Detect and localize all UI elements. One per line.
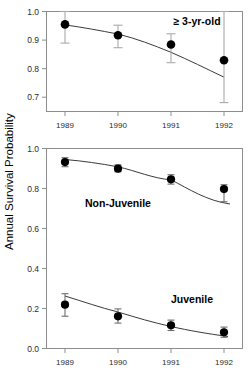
nonjuvenile-marker-1989: [61, 158, 69, 166]
top-xtick-label-1992: 1992: [215, 121, 233, 130]
nonjuvenile-datapoint-1989: [61, 158, 69, 167]
top-ytick-label-1.0: 1.0: [27, 7, 39, 17]
top-ytick-label-0.9: 0.9: [27, 35, 39, 45]
top-ytick-label-0.8: 0.8: [27, 64, 39, 74]
top-marker-1992: [220, 56, 229, 65]
bottom-ytick-label-0.0: 0.0: [27, 344, 39, 354]
top-datapoint-1992: [220, 12, 229, 103]
juvenile-marker-1989: [61, 301, 69, 309]
juvenile-marker-1992: [220, 328, 228, 336]
bottom-ytick-label-0.6: 0.6: [27, 224, 39, 234]
top-xtick-label-1989: 1989: [56, 121, 74, 130]
bottom-xtick-label-1990: 1990: [109, 358, 127, 367]
top-marker-1991: [167, 40, 176, 49]
bottom-panel: 1.0 0.8 0.6 0.4 0.2 0.0 1989 1990 1991 1…: [27, 144, 242, 368]
nonjuvenile-datapoint-1991: [167, 175, 175, 184]
nonjuvenile-series-label: Non-Juvenile: [85, 197, 151, 209]
bottom-panel-frame: [47, 149, 243, 349]
bottom-ytick-label-0.8: 0.8: [27, 184, 39, 194]
survival-probability-figure: Annual Survival Probability 1.0 0.9 0.8 …: [0, 0, 249, 370]
bottom-xtick-label-1989: 1989: [56, 358, 74, 367]
top-panel: 1.0 0.9 0.8 0.7 1989 1990 1991 1992: [27, 7, 242, 131]
juvenile-datapoint-1991: [167, 320, 175, 330]
bottom-ytick-label-1.0: 1.0: [27, 144, 39, 154]
juvenile-marker-1990: [114, 312, 122, 320]
top-datapoint-1989: [61, 12, 70, 44]
bottom-panel-y-axis: 1.0 0.8 0.6 0.4 0.2 0.0: [27, 144, 46, 354]
nonjuvenile-series-points: [61, 158, 228, 202]
nonjuvenile-marker-1990: [114, 165, 122, 173]
bottom-panel-x-axis: 1989 1990 1991 1992: [56, 349, 233, 368]
nonjuvenile-datapoint-1992: [220, 185, 228, 202]
top-xtick-label-1990: 1990: [109, 121, 127, 130]
bottom-xtick-label-1992: 1992: [215, 358, 233, 367]
juvenile-series-label: Juvenile: [171, 293, 213, 305]
bottom-ytick-label-0.2: 0.2: [27, 304, 39, 314]
top-datapoint-1990: [114, 25, 123, 48]
top-marker-1989: [61, 20, 70, 29]
top-panel-x-axis: 1989 1990 1991 1992: [56, 112, 233, 131]
bottom-ytick-label-0.4: 0.4: [27, 264, 39, 274]
bottom-xtick-label-1991: 1991: [162, 358, 180, 367]
top-datapoint-1991: [167, 34, 176, 63]
top-ytick-label-0.7: 0.7: [27, 92, 39, 102]
juvenile-marker-1991: [167, 321, 175, 329]
chart-canvas: Annual Survival Probability 1.0 0.9 0.8 …: [0, 0, 249, 370]
nonjuvenile-marker-1992: [220, 185, 228, 193]
y-axis-title: Annual Survival Probability: [3, 113, 15, 250]
nonjuvenile-datapoint-1990: [114, 165, 122, 173]
top-fit-curve: [65, 25, 224, 77]
top-xtick-label-1991: 1991: [162, 121, 180, 130]
top-panel-annotation: ≥ 3-yr-old: [173, 15, 220, 27]
top-marker-1990: [114, 31, 123, 40]
nonjuvenile-marker-1991: [167, 175, 175, 183]
top-panel-y-axis: 1.0 0.9 0.8 0.7: [27, 7, 46, 103]
